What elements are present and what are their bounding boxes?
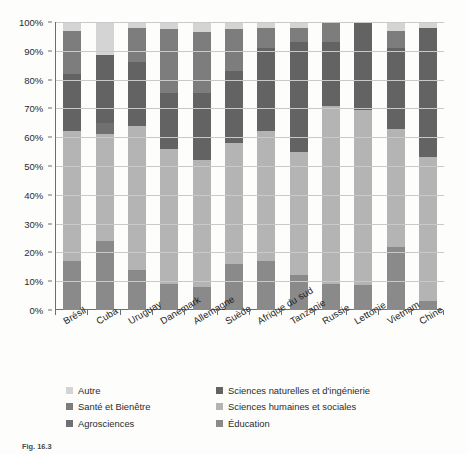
bar-segment <box>63 131 81 261</box>
bar-segment <box>128 62 146 125</box>
bar-segment <box>96 241 114 310</box>
bar-segment <box>128 126 146 270</box>
bar-segment <box>257 48 275 132</box>
y-axis-tick-label: 100% <box>19 17 43 28</box>
bar-segment <box>290 28 308 42</box>
bar-segment <box>160 22 178 29</box>
y-axis-tick-mark <box>48 50 52 51</box>
bar-segment <box>128 270 146 310</box>
bar-segment <box>257 261 275 310</box>
x-axis: BrésilCubaUruguayDanemarkAllemagneSuèdeA… <box>55 310 443 366</box>
legend-label: Agrosciences <box>78 418 134 429</box>
legend-swatch-icon <box>66 420 73 427</box>
bar-segment <box>193 32 211 92</box>
bar-segment <box>160 93 178 149</box>
bar-segment <box>225 71 243 143</box>
bar-segment <box>160 29 178 92</box>
y-axis-tick-mark <box>48 223 52 224</box>
x-axis-tick-mark <box>184 310 185 315</box>
bar-segment <box>63 31 81 74</box>
y-axis-tick-label: 30% <box>24 218 43 229</box>
bar-segment <box>128 28 146 63</box>
bar-segment <box>419 157 437 301</box>
bar-segment <box>290 152 308 276</box>
legend-label: Sciences naturelles et d'ingénierie <box>228 385 370 396</box>
legend-label: Santé et Bienêtre <box>78 401 150 412</box>
bar-segment <box>387 129 405 247</box>
legend-item: Santé et Bienêtre <box>66 401 216 412</box>
plot-area <box>55 22 443 310</box>
legend-item: Autre <box>66 385 216 396</box>
chart-legend: AutreSciences naturelles et d'ingénierie… <box>66 382 406 432</box>
figure-container: 0%10%20%30%40%50%60%70%80%90%100% Brésil… <box>0 0 468 454</box>
bar-segment <box>257 131 275 261</box>
legend-label: Sciences humaines et sociales <box>228 401 356 412</box>
bar-segment <box>96 134 114 241</box>
x-axis-tick-mark <box>217 310 218 315</box>
y-axis-tick-label: 60% <box>24 132 43 143</box>
x-axis-tick-mark <box>411 310 412 315</box>
x-axis-tick-mark <box>314 310 315 315</box>
y-axis-tick-label: 70% <box>24 103 43 114</box>
bar-segment <box>160 149 178 284</box>
legend-swatch-icon <box>66 403 73 410</box>
bar-segment <box>63 22 81 31</box>
bar-segment <box>387 48 405 129</box>
figure-caption: Fig. 16.3 <box>22 442 452 454</box>
bar-segment <box>354 110 372 285</box>
bar-segment <box>257 28 275 48</box>
y-axis-tick-mark <box>48 79 52 80</box>
legend-swatch-icon <box>216 387 223 394</box>
x-axis-tick-mark <box>443 310 444 315</box>
y-axis-tick-label: 20% <box>24 247 43 258</box>
legend-swatch-icon <box>216 403 223 410</box>
x-axis-tick-mark <box>120 310 121 315</box>
y-axis-tick-label: 40% <box>24 189 43 200</box>
bar-segment <box>193 93 211 161</box>
y-axis-tick-label: 50% <box>24 161 43 172</box>
bar-segment <box>322 22 340 42</box>
y-axis-tick-mark <box>48 166 52 167</box>
legend-swatch-icon <box>216 420 223 427</box>
gridline <box>56 224 444 225</box>
y-axis-tick-mark <box>48 137 52 138</box>
y-axis-tick-mark <box>48 310 52 311</box>
x-axis-tick-mark <box>378 310 379 315</box>
gridline <box>56 252 444 253</box>
y-axis-tick-mark <box>48 194 52 195</box>
gridline <box>56 281 444 282</box>
y-axis-tick-mark <box>48 281 52 282</box>
y-axis-tick-mark <box>48 252 52 253</box>
y-axis-tick-label: 90% <box>24 45 43 56</box>
bar-segment <box>225 22 243 29</box>
y-axis-tick-label: 80% <box>24 74 43 85</box>
y-axis-tick-label: 0% <box>29 305 43 316</box>
bar-segment <box>225 143 243 264</box>
gridline <box>56 166 444 167</box>
bar-segment <box>387 22 405 31</box>
x-axis-tick-mark <box>249 310 250 315</box>
legend-item: Agrosciences <box>66 418 216 429</box>
gridline <box>56 51 444 52</box>
gridline <box>56 80 444 81</box>
bar-segment <box>96 55 114 123</box>
x-axis-tick-mark <box>87 310 88 315</box>
legend-item: Sciences humaines et sociales <box>216 401 406 412</box>
gridline <box>56 22 444 23</box>
gridline <box>56 195 444 196</box>
y-axis-tick-label: 10% <box>24 276 43 287</box>
x-axis-tick-mark <box>346 310 347 315</box>
bar-segment <box>96 123 114 135</box>
x-axis-tick-mark <box>55 310 56 315</box>
y-axis: 0%10%20%30%40%50%60%70%80%90%100% <box>0 22 52 310</box>
legend-label: Autre <box>78 385 100 396</box>
bar-segment <box>290 42 308 151</box>
x-axis-tick-mark <box>152 310 153 315</box>
y-axis-tick-mark <box>48 22 52 23</box>
bar-segment <box>63 261 81 310</box>
caption-figure-number: Fig. 16.3 <box>22 442 52 451</box>
gridline <box>56 108 444 109</box>
bar-segment <box>63 74 81 132</box>
gridline <box>56 137 444 138</box>
bar-segment <box>193 22 211 32</box>
